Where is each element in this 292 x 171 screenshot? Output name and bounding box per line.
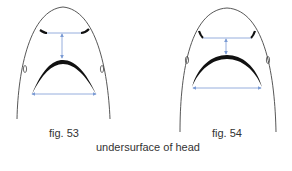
fig53-right-nostril-icon [81,29,89,33]
diagram-caption: undersurface of head [96,141,200,153]
fig53-left-eye-icon [23,66,26,73]
fig54-left-nostril-icon [199,31,203,38]
fig53-label: fig. 53 [49,127,79,139]
fig54-mouth-arc [192,55,262,87]
fig54-label: fig. 54 [212,127,242,139]
fig53-left-nostril-icon [40,30,47,33]
fig53-right-eye-icon [100,66,103,73]
fig54-head-outline [180,8,276,132]
fig53-mouth-arc [32,60,96,94]
fig54-head-drawing [180,8,276,132]
fig54-right-nostril-icon [251,31,255,38]
fig53-head-drawing [17,7,110,119]
